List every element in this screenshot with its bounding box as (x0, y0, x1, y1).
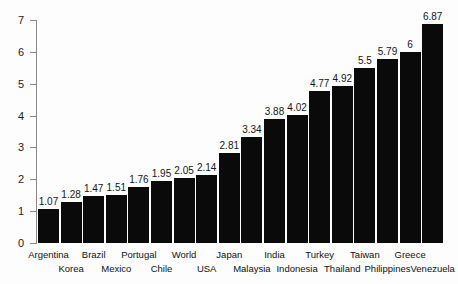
y-axis-line (36, 20, 37, 243)
bar[interactable] (128, 187, 149, 243)
bar[interactable] (174, 178, 195, 243)
bar-group: 1.76 (128, 10, 149, 243)
bar[interactable] (377, 59, 398, 243)
bar-group: 1.28 (61, 10, 82, 243)
y-axis-tick-label: 5 (0, 79, 24, 90)
y-axis-tick (30, 20, 37, 21)
bar-group: 4.92 (332, 10, 353, 243)
bar[interactable] (241, 137, 262, 243)
bar-group: 6.87 (422, 10, 443, 243)
y-axis-tick (30, 147, 37, 148)
bar-group: 3.88 (264, 10, 285, 243)
y-axis-tick-label: 6 (0, 47, 24, 58)
bar[interactable] (309, 91, 330, 243)
y-axis-tick (30, 116, 37, 117)
bar[interactable] (83, 196, 104, 243)
bar[interactable] (38, 209, 59, 243)
bar-group: 1.07 (38, 10, 59, 243)
bar[interactable] (106, 195, 127, 243)
bar-group: 1.95 (151, 10, 172, 243)
plot-area: 1.071.281.471.511.761.952.052.142.813.34… (38, 10, 448, 243)
bar-group: 5.5 (354, 10, 375, 243)
bar[interactable] (400, 52, 421, 243)
bar-group: 3.34 (241, 10, 262, 243)
bar[interactable] (151, 181, 172, 243)
y-axis-tick-label: 1 (0, 206, 24, 217)
bar[interactable] (264, 119, 285, 243)
y-axis-tick (30, 52, 37, 53)
bar[interactable] (287, 115, 308, 243)
y-axis-tick (30, 211, 37, 212)
bar[interactable] (196, 175, 217, 243)
bar[interactable] (219, 153, 240, 243)
bar[interactable] (61, 202, 82, 243)
y-axis-tick-label: 3 (0, 142, 24, 153)
bar[interactable] (332, 86, 353, 243)
x-axis-category-label: Venezuela (393, 264, 458, 274)
y-axis-tick-label: 7 (0, 15, 24, 26)
bar-group: 1.47 (83, 10, 104, 243)
bar[interactable] (354, 68, 375, 243)
y-axis-tick-label: 4 (0, 111, 24, 122)
y-axis-tick-label: 0 (0, 238, 24, 249)
y-axis-tick (30, 84, 37, 85)
y-axis-tick-label: 2 (0, 174, 24, 185)
bar-group: 2.05 (174, 10, 195, 243)
bar-value-label: 6.87 (414, 12, 451, 22)
bar-group: 4.02 (287, 10, 308, 243)
y-axis-tick (30, 243, 37, 244)
bar-group: 6 (400, 10, 421, 243)
bar-group: 2.14 (196, 10, 217, 243)
bar-group: 1.51 (106, 10, 127, 243)
y-axis-tick (30, 179, 37, 180)
bar[interactable] (422, 24, 443, 243)
x-axis-category-label: Greece (370, 250, 450, 260)
bar-group: 4.77 (309, 10, 330, 243)
bar-chart: 76543210 1.071.281.471.511.761.952.052.1… (0, 0, 458, 284)
